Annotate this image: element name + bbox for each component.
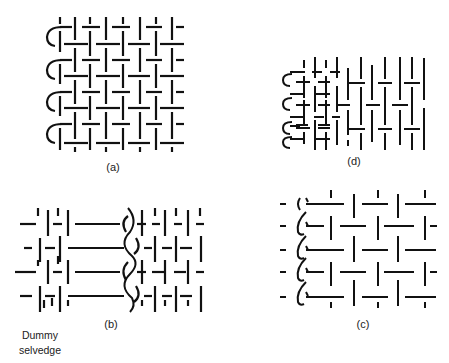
panel-b-weave: [15, 208, 204, 312]
weave-diagram: [0, 0, 449, 363]
panel-d-weave: [283, 57, 424, 150]
dummy-selvedge-annotation: Dummy selvedge: [14, 328, 66, 358]
panel-d-label: (d): [343, 155, 365, 167]
panel-c-weave: [280, 190, 437, 308]
panel-c-label: (c): [352, 318, 374, 330]
panel-a-label: (a): [102, 161, 124, 173]
panel-b-label: (b): [100, 318, 122, 330]
panel-a-weave: [47, 17, 184, 152]
